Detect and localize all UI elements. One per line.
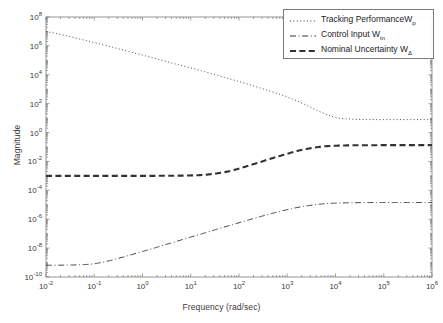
x-tick-label: 103	[281, 282, 293, 291]
legend-label: Control Input Win	[321, 29, 385, 39]
x-tick-label: 100	[136, 282, 148, 291]
x-tick-label: 10-2	[39, 282, 53, 291]
y-tick-label: 106	[10, 41, 42, 50]
y-tick-label: 108	[10, 13, 42, 22]
y-tick-label: 104	[10, 70, 42, 79]
y-tick-label: 10-8	[10, 244, 42, 253]
x-axis-label: Frequency (rad/sec)	[0, 302, 443, 312]
legend-label: Nominal Uncertainty WΔ	[321, 44, 412, 54]
y-axis-label: Magnitude	[12, 100, 22, 190]
legend-line-sample	[288, 28, 318, 43]
x-tick-label: 102	[233, 282, 245, 291]
legend-entry-0: Tracking PerformanceWp	[288, 13, 432, 28]
y-tick-label: 10-4	[10, 186, 42, 195]
series-curve-1	[46, 203, 432, 266]
y-tick-label: 10-6	[10, 215, 42, 224]
y-tick-label: 10-2	[10, 157, 42, 166]
legend-box: Tracking PerformanceWpControl Input WinN…	[283, 9, 434, 59]
legend-label: Tracking PerformanceWp	[321, 14, 416, 24]
x-tick-label: 10-1	[87, 282, 101, 291]
x-tick-label: 104	[329, 282, 341, 291]
bode-magnitude-figure: Frequency (rad/sec) Magnitude 10-210-110…	[0, 0, 443, 323]
y-tick-label: 102	[10, 99, 42, 108]
legend-line-sample	[288, 13, 318, 28]
series-curve-2	[46, 145, 432, 176]
y-tick-label: 10-10	[10, 273, 42, 282]
legend-entry-2: Nominal Uncertainty WΔ	[288, 43, 432, 58]
x-tick-label: 101	[185, 282, 197, 291]
x-tick-label: 106	[426, 282, 438, 291]
legend-line-sample	[288, 43, 318, 58]
legend-entry-1: Control Input Win	[288, 28, 432, 43]
x-tick-label: 105	[378, 282, 390, 291]
y-tick-label: 100	[10, 128, 42, 137]
